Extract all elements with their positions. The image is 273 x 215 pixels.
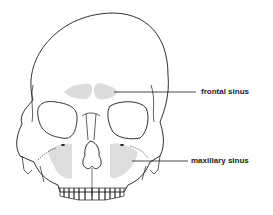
maxillary-sinus-label: maxillary sinus (191, 157, 249, 165)
skull-illustration (0, 0, 273, 215)
skull-diagram: frontal sinus maxillary sinus (0, 0, 273, 215)
temporal-line-left (32, 85, 33, 122)
infraorbital-foramen-left (61, 144, 65, 146)
frontal-sinus (64, 83, 118, 99)
styloid-left (40, 166, 44, 182)
teeth (58, 188, 126, 200)
nasal-bones (82, 113, 100, 140)
orbit-right (108, 102, 148, 139)
nasal-aperture (83, 141, 101, 169)
maxillary-sinus (48, 143, 138, 178)
infraorbital-foramen-right (120, 144, 124, 146)
styloid-right (142, 166, 146, 180)
frontal-sinus-label: frontal sinus (201, 88, 249, 96)
temporal-line-right (151, 85, 154, 122)
orbit-left (38, 102, 77, 139)
cranium-outline (17, 13, 169, 192)
